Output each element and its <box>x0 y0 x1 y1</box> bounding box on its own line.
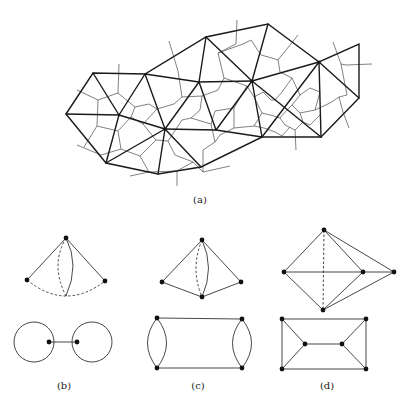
panel-c-bottom-graph <box>148 316 252 371</box>
panel-a-triangulation <box>66 24 359 174</box>
panel-b-label: (b) <box>57 380 71 391</box>
panel-d-label: (d) <box>320 380 334 391</box>
panel-a-label: (a) <box>193 194 207 205</box>
panel-c-label: (c) <box>191 380 204 391</box>
panel-a-vertices <box>118 60 321 130</box>
panel-b-bottom-graph <box>14 322 112 362</box>
panel-d-top-graph <box>282 228 397 313</box>
panel-d-bottom-graph <box>280 317 369 372</box>
panel-b-top-graph <box>25 236 108 296</box>
panel-c-top-graph <box>160 238 244 300</box>
panel-a-dual-graph <box>77 20 372 186</box>
